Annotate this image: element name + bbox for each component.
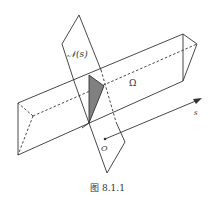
diagram-canvas: 𝒩(s) Ω s O (0, 0, 215, 207)
axis-label: s (194, 109, 198, 117)
cross-section-triangle (89, 75, 104, 123)
figure-8-1-1: 𝒩(s) Ω s O (0, 0, 215, 207)
figure-caption: 图 8.1.1 (0, 181, 215, 194)
prism-visible-edges (18, 34, 197, 155)
origin-point (104, 138, 107, 141)
plane-label: 𝒩(s) (67, 49, 88, 59)
s-axis (105, 100, 198, 139)
region-label: Ω (129, 78, 136, 88)
s-axis-arrowhead-icon (193, 98, 202, 104)
origin-label: O (101, 144, 108, 153)
